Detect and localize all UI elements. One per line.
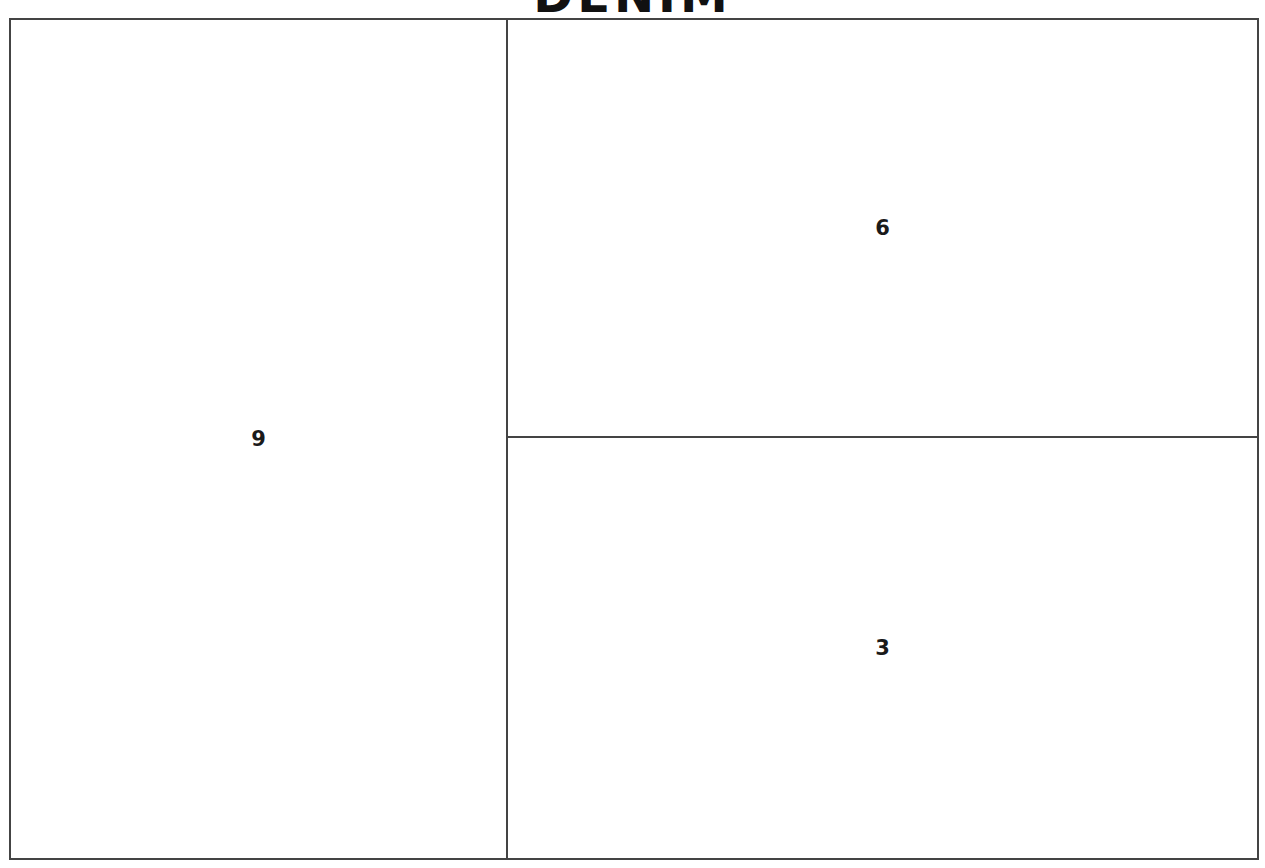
treemap-cell-9: 9 xyxy=(11,20,508,858)
chart-title: DENIM xyxy=(0,0,1265,20)
cell-label: 3 xyxy=(875,636,890,660)
cell-label: 6 xyxy=(875,216,890,240)
treemap-frame: 9 6 3 xyxy=(9,18,1259,860)
treemap-cell-3: 3 xyxy=(508,438,1257,858)
treemap-cell-6: 6 xyxy=(508,20,1257,438)
cell-label: 9 xyxy=(251,427,266,451)
